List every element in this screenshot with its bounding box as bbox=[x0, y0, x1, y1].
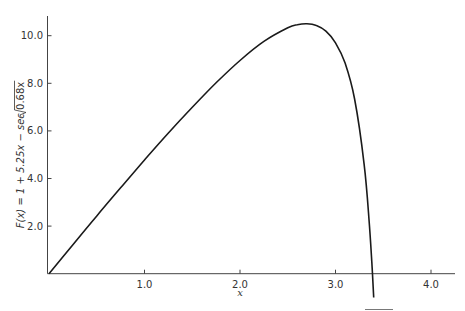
y-tick-label: 10.0 bbox=[21, 30, 43, 41]
y-axis-label: F(x) = 1 + 5.25x − sec 0.68x bbox=[15, 81, 27, 229]
axes bbox=[48, 16, 456, 274]
x-axis-label: x bbox=[237, 287, 243, 298]
y-axis-label-radicand: 0.68x bbox=[15, 82, 26, 110]
function-curve bbox=[49, 24, 374, 298]
y-tick-label: 6.0 bbox=[27, 125, 43, 136]
y-tick-label: 8.0 bbox=[27, 78, 43, 89]
y-tick-label: 4.0 bbox=[27, 173, 43, 184]
y-axis-label-prefix: F(x) = 1 + 5.25x − sec bbox=[15, 110, 26, 228]
x-axis-ticks: 1.02.03.04.0 bbox=[137, 270, 439, 290]
function-plot: 1.02.03.04.0 2.04.06.08.010.0 x F(x) = 1… bbox=[0, 0, 465, 311]
svg-text:F(x) = 1 + 5.25x − sec 0.68x: F(x) = 1 + 5.25x − sec 0.68x bbox=[15, 82, 26, 229]
x-tick-label: 1.0 bbox=[137, 279, 153, 290]
y-tick-label: 2.0 bbox=[27, 221, 43, 232]
x-tick-label: 4.0 bbox=[423, 279, 439, 290]
x-tick-label: 3.0 bbox=[328, 279, 344, 290]
